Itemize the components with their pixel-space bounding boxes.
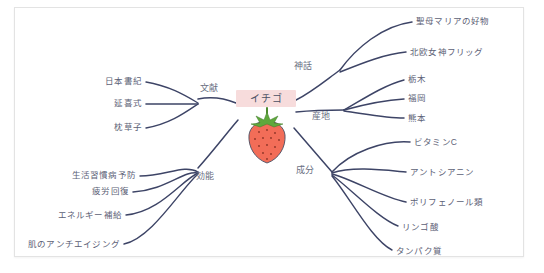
branch-label-sanchi[interactable]: 産地 [312,112,331,121]
leaf-label-nihonshoki[interactable]: 日本書紀 [34,77,142,86]
mindmap-canvas: イチゴ 文献 効能 神話 産地 成分 日本書紀 延喜式 枕草子 生活習慣病予防 … [0,0,544,273]
leaf-label-polyphenol[interactable]: ポリフェノール類 [410,198,484,207]
leaf-label-anthocyanin[interactable]: アントシアニン [410,168,474,177]
leaf-label-energy-hokyu[interactable]: エネルギー補給 [10,211,122,220]
branch-label-shinwa[interactable]: 神話 [294,62,313,71]
leaf-label-seikatsu-shukanbyo-yobo[interactable]: 生活習慣病予防 [10,171,136,180]
leaf-label-protein[interactable]: タンパク質 [396,247,442,256]
center-node-label: イチゴ [250,94,283,104]
leaf-label-seibo-maria[interactable]: 聖母マリアの好物 [416,17,490,26]
branch-label-kounou[interactable]: 効能 [196,172,215,181]
leaf-label-fukuoka[interactable]: 福岡 [408,94,426,103]
leaf-label-vitamin-c[interactable]: ビタミンC [414,138,457,147]
leaf-label-tochigi[interactable]: 栃木 [408,75,426,84]
leaf-label-malic-acid[interactable]: リンゴ酸 [402,223,439,232]
leaf-label-hokuou-megami-frigg[interactable]: 北欧女神フリッグ [410,48,484,57]
leaf-label-kumamoto[interactable]: 熊本 [408,114,426,123]
branch-label-bunken[interactable]: 文献 [200,84,219,93]
leaf-label-makuranososhi[interactable]: 枕草子 [34,123,142,132]
branch-label-seibun[interactable]: 成分 [296,166,315,175]
strawberry-illustration [243,105,291,167]
leaf-label-hada-no-anti-aging[interactable]: 肌のアンチエイジング [8,240,120,249]
leaf-label-hirou-kaifuku[interactable]: 疲労回復 [10,187,129,196]
leaf-label-engishiki[interactable]: 延喜式 [34,99,142,108]
